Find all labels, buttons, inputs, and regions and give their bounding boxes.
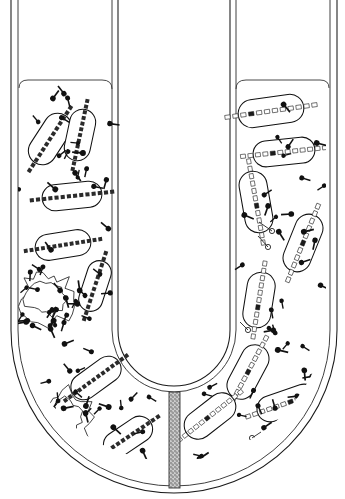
cell-R4-seg-1 <box>312 210 318 216</box>
cell-L7-seg-0 <box>95 454 101 460</box>
phage-particle <box>79 442 92 453</box>
cell-R3-seg-6 <box>254 203 259 209</box>
phage-particle <box>31 114 41 125</box>
cell-R5-seg-5 <box>257 297 262 302</box>
cell-L7-seg-1 <box>100 451 106 457</box>
cell-L3-seg-6 <box>67 194 71 198</box>
phage-particle <box>40 378 52 385</box>
cell-R5-seg-3 <box>259 283 264 288</box>
cell-R1-seg-9 <box>296 105 302 110</box>
phage-head <box>16 186 22 192</box>
cell-R4 <box>274 199 332 288</box>
cell-R3-seg-1 <box>248 166 253 172</box>
phage-head <box>70 435 75 440</box>
cell-L7-seg-2 <box>105 448 111 454</box>
phage-head <box>80 443 88 451</box>
phage-ghost-4-tail <box>252 432 261 438</box>
cell-R3-seg-7 <box>256 210 261 216</box>
cell-R5-seg-7 <box>254 312 259 317</box>
cell-R8-seg-9 <box>309 392 315 397</box>
cell-R1-seg-11 <box>312 103 318 108</box>
phage-head <box>79 445 86 452</box>
phage-particle <box>279 298 285 309</box>
cell-L3-seg-11 <box>98 191 102 195</box>
phage-head <box>41 405 47 411</box>
phage-particle <box>38 437 48 449</box>
cell-R2-seg-3 <box>263 152 268 156</box>
cell-L4-seg-1 <box>29 248 33 253</box>
phage-particle <box>139 447 149 461</box>
phage-particle <box>61 338 75 348</box>
phage-head <box>274 346 281 353</box>
phage-head <box>103 177 110 184</box>
cell-R5-seg-6 <box>255 305 260 310</box>
cell-L4-seg-0 <box>24 249 28 254</box>
cell-L4-seg-9 <box>75 240 79 245</box>
phage-particle <box>59 319 67 332</box>
phage-particle <box>317 282 331 292</box>
cell-L4-seg-3 <box>41 246 45 251</box>
meniscus-right <box>236 80 329 89</box>
phage-particle <box>51 433 56 445</box>
phage-head <box>61 340 68 347</box>
cell-L4-seg-10 <box>81 240 85 245</box>
cell-L3-seg-8 <box>79 193 83 197</box>
phage-head <box>61 319 67 325</box>
cell-R2-seg-1 <box>248 153 253 157</box>
phage-particle <box>82 346 94 355</box>
phage-particle <box>118 400 124 411</box>
cell-L2-seg-6 <box>78 133 83 138</box>
phage-head <box>317 282 324 289</box>
cell-R3-wall <box>237 169 275 235</box>
phage-particle <box>275 228 287 242</box>
cell-R4-seg-10 <box>285 276 291 282</box>
cell-R8-seg-1 <box>252 411 258 416</box>
phage-particle <box>234 262 246 272</box>
phage-particle <box>299 175 311 183</box>
cell-L6-wall <box>66 351 127 405</box>
cell-R3-seg-0 <box>246 159 251 165</box>
cell-R1-seg-0 <box>225 115 231 120</box>
cell-R4-seg-0 <box>315 203 321 209</box>
cell-R5-seg-1 <box>261 268 266 273</box>
phage-tail <box>41 440 46 447</box>
cell-R2-seg-0 <box>240 154 245 158</box>
cell-R3-seg-11 <box>261 240 266 246</box>
phage-particle <box>146 394 158 404</box>
phage-head <box>75 368 81 374</box>
inner-bore-outline-2 <box>118 0 230 386</box>
phage-head <box>88 349 94 355</box>
phage-particle <box>281 211 294 217</box>
phage-head <box>119 405 124 410</box>
phage-tail <box>71 437 72 445</box>
phage-head <box>299 175 305 181</box>
phage-particle <box>63 431 74 440</box>
figure-canvas: U-tube experiment: phage infection acros… <box>0 0 345 499</box>
cell-R2-seg-10 <box>315 146 320 150</box>
cell-R3-seg-10 <box>259 232 264 238</box>
cell-R1 <box>223 91 319 132</box>
phage-head <box>236 412 241 417</box>
phage-particle <box>82 166 89 178</box>
phage-head <box>201 391 207 397</box>
phage-head <box>63 431 69 437</box>
phage-head <box>46 378 52 384</box>
cell-L1-seg-0 <box>27 168 33 174</box>
phage-head <box>83 436 89 442</box>
phage-head <box>301 367 307 373</box>
cell-L2-seg-1 <box>72 161 77 166</box>
cell-L3-seg-12 <box>104 190 108 194</box>
cell-L4-seg-2 <box>35 247 39 252</box>
cell-R1-seg-3 <box>248 111 254 116</box>
phage-tail <box>78 437 87 440</box>
cell-L7-seg-12 <box>155 414 161 420</box>
sintered-glass-filter <box>169 392 180 488</box>
u-tube-diagram: U-tube experiment: phage infection acros… <box>0 0 345 499</box>
cell-L5-seg-11 <box>103 251 108 256</box>
cell-L2-seg-11 <box>84 104 89 109</box>
cell-L1-seg-12 <box>68 105 74 111</box>
phage-particle <box>62 362 74 375</box>
cell-L3 <box>28 179 115 214</box>
phage-particle <box>299 343 310 352</box>
meniscus-left <box>19 80 112 89</box>
